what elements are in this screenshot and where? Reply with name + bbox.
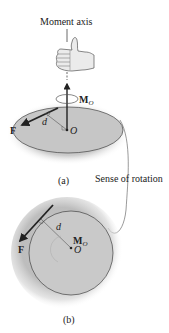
origin-point-b: [70, 247, 73, 250]
origin-point-a: [66, 129, 69, 132]
origin-label-a: O: [70, 126, 77, 136]
moment-label-a: MO: [79, 90, 94, 106]
sense-of-rotation-label: Sense of rotation: [95, 174, 163, 184]
origin-label-b: O: [74, 245, 81, 255]
moment-axis-label: Moment axis: [40, 17, 93, 27]
right-hand-icon: [56, 38, 94, 71]
caption-a: (a): [58, 176, 69, 186]
distance-label-b: d: [56, 222, 61, 232]
moment-diagram: [0, 0, 169, 333]
force-label-b: F: [18, 245, 24, 255]
caption-b: (b): [63, 315, 75, 325]
force-label-a: F: [10, 126, 16, 136]
distance-label-a: d: [42, 117, 47, 127]
